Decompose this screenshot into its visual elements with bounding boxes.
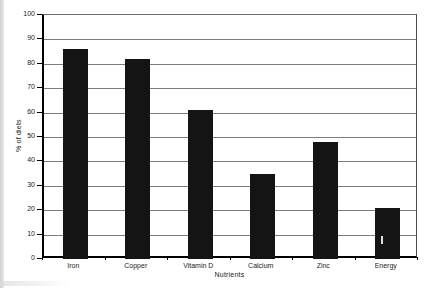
scan-artifact <box>381 236 383 244</box>
x-category-label-copper: Copper <box>105 262 168 270</box>
gridline-70 <box>44 88 416 89</box>
x-tick <box>167 257 168 260</box>
y-tick <box>37 112 42 113</box>
bar-iron <box>63 49 88 259</box>
bar-chart: 0102030405060708090100IronCopperVitamin … <box>0 0 433 288</box>
gridline-60 <box>44 113 416 114</box>
x-tick <box>105 257 106 260</box>
bar-copper <box>125 59 150 259</box>
x-category-label-zinc: Zinc <box>292 262 355 270</box>
gridline-90 <box>44 39 416 40</box>
gridline-10 <box>44 235 416 236</box>
bar-energy <box>375 208 400 259</box>
y-axis-title: % of diets <box>13 14 23 258</box>
y-tick <box>37 136 42 137</box>
x-tick <box>42 257 43 260</box>
plot-area <box>42 14 417 258</box>
gridline-20 <box>44 210 416 211</box>
x-category-label-iron: Iron <box>42 262 105 270</box>
x-axis-title: Nutrients <box>42 271 417 278</box>
y-tick <box>37 160 42 161</box>
x-category-label-energy: Energy <box>355 262 418 270</box>
y-tick <box>37 38 42 39</box>
y-tick <box>37 234 42 235</box>
bar-vitamin-d <box>188 110 213 259</box>
y-tick <box>37 63 42 64</box>
x-tick <box>355 257 356 260</box>
y-tick <box>37 185 42 186</box>
y-tick <box>37 209 42 210</box>
gridline-50 <box>44 137 416 138</box>
x-category-label-vitamin-d: Vitamin D <box>167 262 230 270</box>
gridline-30 <box>44 186 416 187</box>
x-tick <box>417 257 418 260</box>
x-tick <box>292 257 293 260</box>
x-category-label-calcium: Calcium <box>230 262 293 270</box>
y-tick <box>37 14 42 15</box>
x-tick <box>230 257 231 260</box>
gridline-80 <box>44 64 416 65</box>
y-tick <box>37 87 42 88</box>
bar-zinc <box>313 142 338 259</box>
gridline-40 <box>44 161 416 162</box>
bar-calcium <box>250 174 275 259</box>
